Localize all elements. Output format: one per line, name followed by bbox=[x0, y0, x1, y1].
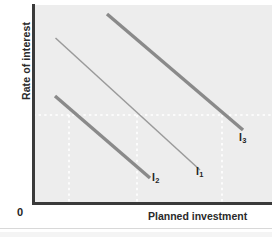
curve-label-i3-subscript: 3 bbox=[242, 136, 246, 145]
y-axis-title: Rate of interest bbox=[20, 0, 32, 131]
curves bbox=[55, 14, 243, 178]
curve-label-i2: I2 bbox=[152, 172, 159, 183]
curve-label-i2-subscript: 2 bbox=[155, 176, 159, 185]
curve-label-i3: I3 bbox=[239, 132, 246, 143]
gridlines bbox=[33, 115, 272, 203]
curve-label-i1: I1 bbox=[196, 166, 203, 177]
page-divider-top bbox=[0, 228, 272, 229]
curve-i3 bbox=[107, 14, 243, 130]
page-divider-bottom bbox=[0, 232, 272, 237]
y-axis-line bbox=[32, 4, 35, 205]
curve-i1 bbox=[56, 38, 201, 170]
x-axis-title: Planned investment bbox=[148, 210, 247, 222]
investment-demand-figure: Rate of interest 0 Planned investment I1 bbox=[0, 0, 272, 237]
origin-label: 0 bbox=[17, 206, 23, 218]
x-axis-line bbox=[32, 202, 272, 205]
curve-label-i1-subscript: 1 bbox=[199, 170, 203, 179]
